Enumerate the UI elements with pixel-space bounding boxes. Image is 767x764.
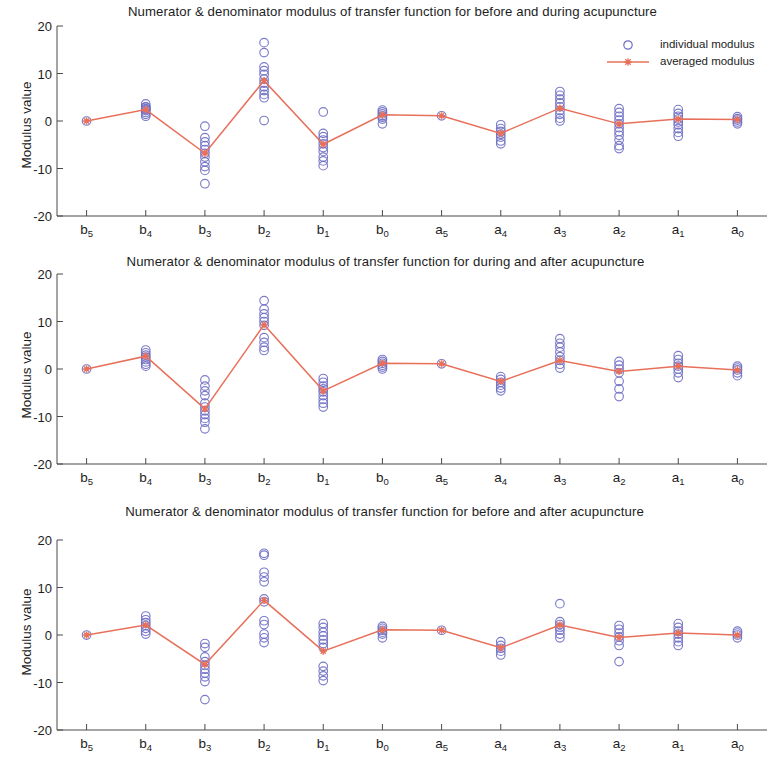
x-axis-tick-label: b1 [317,736,330,751]
average-marker [734,116,741,123]
legend-label-individual: individual modulus [660,36,755,53]
average-marker [556,105,563,112]
data-point-marker [556,599,565,608]
panel-3-plot-area: 20100-10-20b5b4b3b2b1b0a5a4a3a2a1a0 [57,540,767,730]
average-marker [556,357,563,364]
legend-marker-averaged-icon [605,55,651,69]
data-point-marker [319,108,328,117]
average-marker [379,111,386,118]
average-marker [379,626,386,633]
x-axis-tick-label: a4 [494,470,507,485]
x-axis-tick-label: a1 [672,736,685,751]
x-axis-tick-label: a1 [672,222,685,237]
average-marker [83,117,90,124]
y-axis-tick-label: -20 [33,209,52,224]
average-marker [260,321,267,328]
x-axis-tick-label: a3 [554,736,567,751]
average-marker [142,353,149,360]
panel-1-title: Numerator & denominator modulus of trans… [0,4,767,19]
average-marker [320,141,327,148]
x-axis-tick-label: a3 [554,222,567,237]
average-marker [379,360,386,367]
legend-marker-individual-icon [605,38,651,52]
chart-panel-3: Numerator & denominator modulus of trans… [0,500,767,764]
average-marker [260,77,267,84]
averaged-modulus-markers [83,77,741,157]
plot-canvas [57,540,767,730]
average-marker [438,112,445,119]
panel-3-ylabel: Modulus value [19,562,34,702]
data-point-marker [260,549,269,558]
y-axis-tick-label: -10 [33,409,52,424]
x-axis-tick-label: a2 [613,736,626,751]
x-axis-tick-label: b3 [199,736,212,751]
x-axis-tick-label: b4 [139,222,152,237]
y-axis-tick-label: 0 [45,362,52,377]
data-point-marker [260,551,269,560]
x-axis-tick-label: b0 [376,470,389,485]
x-axis-tick-label: a5 [435,470,448,485]
x-axis-tick-label: b1 [317,222,330,237]
data-point-marker [260,296,269,305]
averaged-modulus-line [87,325,738,409]
x-axis-tick-label: b5 [80,222,93,237]
average-marker [142,621,149,628]
x-axis-tick-label: b4 [139,470,152,485]
y-axis-tick-label: 0 [45,114,52,129]
average-marker [615,634,622,641]
x-axis-tick-label: b5 [80,736,93,751]
data-point-marker [260,116,269,125]
y-axis-tick-label: -20 [33,457,52,472]
y-axis-tick-label: -20 [33,723,52,738]
data-point-marker [201,179,210,188]
legend-entry-averaged: averaged modulus [605,53,755,70]
x-axis-tick-label: a0 [731,470,744,485]
x-axis-tick-label: a1 [672,470,685,485]
y-axis-tick-label: 10 [38,66,52,81]
legend-label-averaged: averaged modulus [660,53,755,70]
average-marker [734,366,741,373]
x-axis-tick-label: b0 [376,736,389,751]
average-marker [497,378,504,385]
averaged-modulus-markers [83,321,741,412]
average-marker [142,106,149,113]
x-axis-tick-label: a5 [435,222,448,237]
x-axis-tick-label: b2 [258,736,271,751]
averaged-modulus-markers [83,597,741,668]
averaged-modulus-line [87,81,738,154]
average-marker [615,120,622,127]
average-marker [320,387,327,394]
average-marker [734,631,741,638]
y-axis-tick-label: -10 [33,675,52,690]
averaged-modulus-line [87,600,738,664]
x-axis-tick-label: a4 [494,736,507,751]
y-axis-tick-label: 20 [38,19,52,34]
y-axis-tick-label: 10 [38,314,52,329]
average-marker [438,627,445,634]
average-marker [260,597,267,604]
x-axis-tick-label: a4 [494,222,507,237]
x-axis-tick-label: b3 [199,470,212,485]
y-axis-tick-label: 20 [38,267,52,282]
x-axis-tick-label: b4 [139,736,152,751]
average-marker [556,621,563,628]
data-point-marker [615,657,624,666]
legend-entry-individual: individual modulus [605,36,755,53]
x-axis-tick-label: b5 [80,470,93,485]
panel-1-ylabel: Modulus value [19,55,34,195]
x-axis-tick-label: b2 [258,470,271,485]
individual-modulus-points [82,296,741,433]
x-axis-tick-label: b3 [199,222,212,237]
chart-panel-1: Numerator & denominator modulus of trans… [0,0,767,250]
data-point-marker [201,425,210,434]
x-axis-tick-label: a2 [613,222,626,237]
x-axis-tick-label: a0 [731,736,744,751]
x-axis-tick-label: b0 [376,222,389,237]
data-point-marker [260,38,269,47]
average-marker [675,116,682,123]
x-axis-tick-label: a3 [554,470,567,485]
panel-2-ylabel: Modulus value [19,305,34,445]
panel-2-title: Numerator & denominator modulus of trans… [0,254,767,269]
chart-legend: individual modulus averaged modulus [605,36,755,70]
panel-3-title: Numerator & denominator modulus of trans… [0,504,767,519]
